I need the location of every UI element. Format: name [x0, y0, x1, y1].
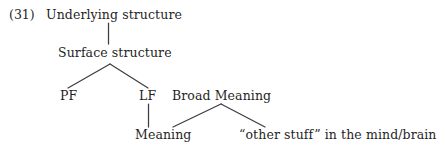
node-meaning: Meaning [135, 128, 191, 142]
example-number-label: (31) [9, 8, 35, 22]
node-pf: PF [60, 89, 77, 103]
edge-surface-to-lf [110, 64, 148, 88]
node-lf: LF [139, 89, 156, 103]
figure-canvas: (31) Underlying structure Surface struct… [0, 0, 437, 150]
node-other-stuff-in-mind-brain: “other stuff” in the mind/brain [239, 128, 437, 142]
node-surface-structure: Surface structure [58, 46, 172, 60]
edge-broadmeaning-to-meaning [173, 104, 221, 127]
node-underlying-structure: Underlying structure [46, 8, 182, 22]
edge-broadmeaning-to-otherstuff [221, 104, 265, 127]
node-broad-meaning: Broad Meaning [172, 89, 271, 103]
edge-surface-to-pf [68, 64, 110, 88]
